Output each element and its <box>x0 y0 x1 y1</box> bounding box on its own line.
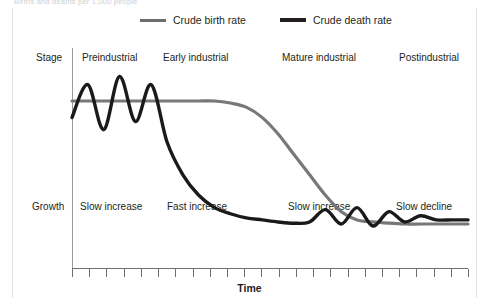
page-rule-right <box>476 8 477 298</box>
chart-legend: Crude birth rate Crude death rate <box>140 12 392 28</box>
growth-cell-slow-decline: Slow decline <box>396 201 452 213</box>
x-axis-tick <box>193 269 194 277</box>
x-axis-title: Time <box>0 282 499 294</box>
x-axis-tick <box>106 269 107 277</box>
growth-cell-slow-increase-1: Slow increase <box>80 201 142 213</box>
x-axis-tick <box>244 269 245 277</box>
legend-item-crude-death-rate: Crude death rate <box>280 14 392 26</box>
x-axis-tick <box>89 269 90 277</box>
line-swatch-icon-birth <box>140 19 166 22</box>
x-axis-tick <box>330 269 331 277</box>
figure-caption: Births and deaths per 1,000 people <box>14 0 204 6</box>
x-axis-tick <box>210 269 211 277</box>
growth-cell-slow-increase-2: Slow increase <box>288 201 350 213</box>
stage-cell-preindustrial: Preindustrial <box>82 52 138 64</box>
x-axis-line <box>72 268 468 269</box>
legend-item-crude-birth-rate: Crude birth rate <box>140 14 246 26</box>
line-swatch-icon-death <box>280 18 306 22</box>
x-axis-tick <box>72 269 73 277</box>
x-axis-tick <box>261 269 262 277</box>
chart-plot-area <box>0 0 499 305</box>
x-axis-tick <box>399 269 400 277</box>
x-axis-tick <box>382 269 383 277</box>
x-axis-tick <box>313 269 314 277</box>
demographic-transition-figure: Births and deaths per 1,000 people Crude… <box>0 0 499 305</box>
x-axis-tick <box>158 269 159 277</box>
x-axis-tick <box>348 269 349 277</box>
x-axis-tick <box>279 269 280 277</box>
x-axis-tick <box>141 269 142 277</box>
legend-label-death: Crude death rate <box>313 14 392 26</box>
y-axis-line <box>72 48 73 269</box>
stage-cell-early-industrial: Early industrial <box>163 52 229 64</box>
x-axis-tick <box>175 269 176 277</box>
page-rule-left <box>12 8 13 298</box>
x-axis-tick <box>124 269 125 277</box>
x-axis-tick <box>451 269 452 277</box>
x-axis-tick <box>227 269 228 277</box>
stage-cell-postindustrial: Postindustrial <box>399 52 459 64</box>
row-label-growth: Growth <box>32 201 64 213</box>
x-axis-tick <box>365 269 366 277</box>
x-axis-tick <box>296 269 297 277</box>
x-axis-tick <box>468 269 469 277</box>
x-axis-tick <box>434 269 435 277</box>
growth-cell-fast-increase: Fast increase <box>167 201 227 213</box>
legend-label-birth: Crude birth rate <box>173 14 246 26</box>
row-label-stage: Stage <box>36 52 62 64</box>
x-axis-tick <box>416 269 417 277</box>
stage-cell-mature-industrial: Mature industrial <box>282 52 356 64</box>
